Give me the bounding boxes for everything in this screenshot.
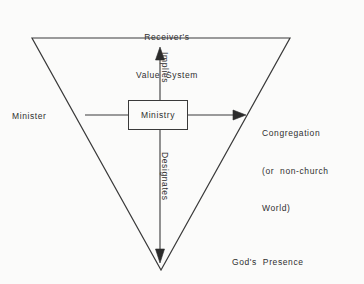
arrowhead-down-icon (156, 249, 165, 263)
center-node-ministry: Ministry (128, 100, 188, 130)
edge-label-designates: Designates (160, 152, 170, 201)
vertex-label-bottom: God's Presence (232, 256, 304, 269)
vertex-label-left: Minister (12, 110, 47, 123)
vertex-label-right: Congregation (or non-church World) (262, 102, 329, 240)
center-node-label: Ministry (129, 101, 187, 129)
vertex-label-right-line3: World) (262, 202, 329, 215)
ministry-triangle-diagram: Receiver's Value System Minister Congreg… (0, 0, 364, 284)
edge-label-implies: Implies (160, 52, 170, 83)
arrowhead-right-icon (233, 110, 246, 120)
vertex-label-right-line2: (or non-church (262, 165, 329, 178)
vertex-label-top-line1: Receiver's (107, 31, 227, 44)
vertex-label-right-line1: Congregation (262, 127, 329, 140)
